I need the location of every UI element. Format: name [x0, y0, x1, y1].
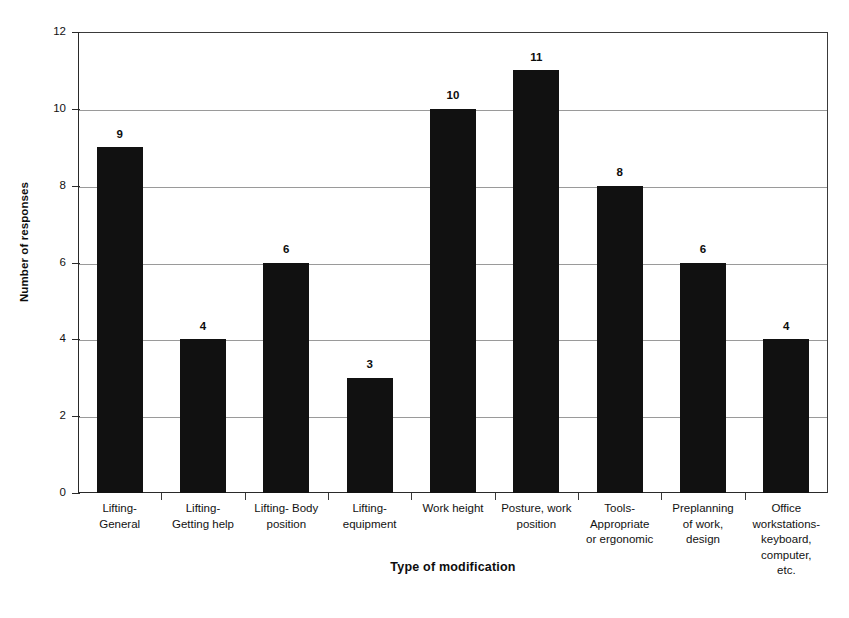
- x-tick: [328, 493, 329, 500]
- x-axis-category-label: Lifting-General: [78, 501, 161, 532]
- bar-value-label: 9: [116, 129, 122, 141]
- x-axis-title: Type of modification: [78, 560, 828, 574]
- x-axis-label-line: Lifting-: [78, 501, 161, 517]
- bar[interactable]: [680, 263, 726, 494]
- bar[interactable]: [263, 263, 309, 494]
- x-axis-label-line: Preplanning: [661, 501, 744, 517]
- x-axis-category-label: Posture, workposition: [495, 501, 578, 532]
- bar-group: 11: [495, 32, 578, 493]
- bar[interactable]: [180, 339, 226, 493]
- bar[interactable]: [97, 147, 143, 493]
- x-axis-label-line: General: [78, 517, 161, 533]
- y-tick-label: 4: [26, 333, 66, 345]
- x-axis-label-line: Work height: [411, 501, 494, 517]
- x-axis-label-line: Office: [745, 501, 828, 517]
- x-axis-label-line: Appropriate: [578, 517, 661, 533]
- x-axis-label-line: or ergonomic: [578, 532, 661, 548]
- x-axis-labels: Lifting-GeneralLifting-Getting helpLifti…: [78, 501, 828, 611]
- x-axis-category-label: Work height: [411, 501, 494, 517]
- x-tick: [661, 493, 662, 500]
- bar[interactable]: [513, 70, 559, 493]
- x-axis-label-line: Posture, work: [495, 501, 578, 517]
- x-axis-category-label: Preplanningof work,design: [661, 501, 744, 548]
- x-axis-label-line: Lifting- Body: [245, 501, 328, 517]
- x-tick: [245, 493, 246, 500]
- y-tick-label: 2: [26, 410, 66, 422]
- x-tick: [578, 493, 579, 500]
- x-axis-category-label: Tools-Appropriateor ergonomic: [578, 501, 661, 548]
- y-tick-label: 6: [26, 257, 66, 269]
- x-axis-label-line: design: [661, 532, 744, 548]
- x-axis-label-line: Tools-: [578, 501, 661, 517]
- bar-group: 8: [578, 32, 661, 493]
- bar-group: 9: [78, 32, 161, 493]
- x-axis-label-line: keyboard,: [745, 532, 828, 548]
- x-axis-label-line: position: [495, 517, 578, 533]
- bar[interactable]: [430, 109, 476, 493]
- x-tick: [411, 493, 412, 500]
- x-axis-label-line: workstations-: [745, 517, 828, 533]
- y-tick-label: 8: [26, 180, 66, 192]
- bar-group: 4: [161, 32, 244, 493]
- bar-value-label: 11: [530, 52, 542, 64]
- bar-value-label: 4: [200, 321, 206, 333]
- y-tick-label: 0: [26, 487, 66, 499]
- bar[interactable]: [347, 378, 393, 493]
- x-axis-label-line: Lifting-: [161, 501, 244, 517]
- x-axis-label-line: Lifting-: [328, 501, 411, 517]
- bar-value-label: 6: [283, 244, 289, 256]
- x-tick: [745, 493, 746, 500]
- x-axis-label-line: position: [245, 517, 328, 533]
- bar-group: 6: [661, 32, 744, 493]
- bar-value-label: 10: [447, 90, 460, 102]
- bar-value-label: 4: [783, 321, 789, 333]
- x-axis-label-line: equipment: [328, 517, 411, 533]
- bar-group: 10: [411, 32, 494, 493]
- y-tick-label: 10: [26, 103, 66, 115]
- y-tick-0: [72, 493, 80, 494]
- bar[interactable]: [597, 186, 643, 493]
- bar-chart: Number of responses 024681012 9463101186…: [0, 0, 849, 618]
- x-axis-category-label: Lifting-equipment: [328, 501, 411, 532]
- bars-layer: 94631011864: [78, 32, 828, 493]
- bar-group: 3: [328, 32, 411, 493]
- bar-group: 6: [245, 32, 328, 493]
- bar-value-label: 3: [366, 359, 372, 371]
- bar-group: 4: [745, 32, 828, 493]
- bar[interactable]: [763, 339, 809, 493]
- y-tick-label: 12: [26, 26, 66, 38]
- x-tick: [495, 493, 496, 500]
- x-axis-category-label: Lifting- Bodyposition: [245, 501, 328, 532]
- x-axis-category-label: Lifting-Getting help: [161, 501, 244, 532]
- x-axis-label-line: Getting help: [161, 517, 244, 533]
- x-tick: [161, 493, 162, 500]
- bar-value-label: 6: [700, 244, 706, 256]
- x-axis-label-line: of work,: [661, 517, 744, 533]
- bar-value-label: 8: [616, 167, 622, 179]
- y-axis-title: Number of responses: [18, 142, 30, 342]
